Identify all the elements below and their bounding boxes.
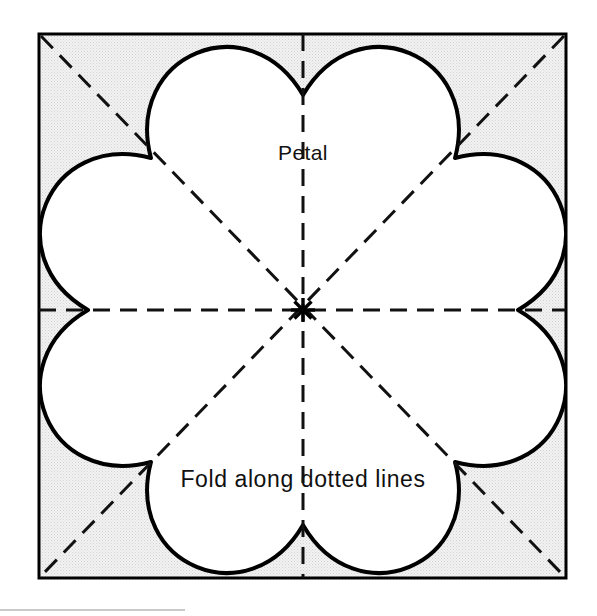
fold-instruction-label: Fold along dotted lines <box>180 466 425 492</box>
petal-label: Petal <box>278 141 328 164</box>
center-asterisk-hub <box>300 307 306 313</box>
petal-fold-diagram: Petal Fold along dotted lines <box>0 0 597 616</box>
